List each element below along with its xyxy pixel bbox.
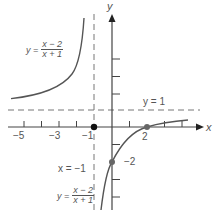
tick-label-minus-1: −1: [82, 131, 93, 141]
equation-denominator: x + 1: [72, 196, 94, 205]
point-x-intercept-2: [144, 124, 150, 130]
equation-label-left: y = x − 2 x + 1: [26, 40, 63, 60]
vertical-asymptote-label: x = −1: [58, 164, 86, 174]
function-graph: [0, 0, 216, 214]
tick-label-minus-5: −5: [13, 131, 24, 141]
equation-lhs: y =: [26, 45, 38, 55]
y-axis-arrow-icon: [109, 14, 116, 22]
x-axis-arrow-icon: [196, 124, 204, 131]
tick-label-2: 2: [142, 132, 148, 142]
tick-label-minus-2: −2: [124, 157, 135, 167]
point-y-intercept-minus-2: [109, 159, 115, 165]
horizontal-asymptote-label: y = 1: [143, 97, 165, 107]
tick-label-minus-3: −3: [49, 131, 60, 141]
equation-denominator: x + 1: [41, 50, 63, 59]
x-axis-label: x: [206, 122, 212, 133]
equation-lhs: y =: [57, 191, 69, 201]
y-axis-label: y: [107, 1, 113, 12]
y-ticks: [112, 59, 120, 197]
equation-label-right: y = x − 2 x + 1: [57, 186, 94, 206]
